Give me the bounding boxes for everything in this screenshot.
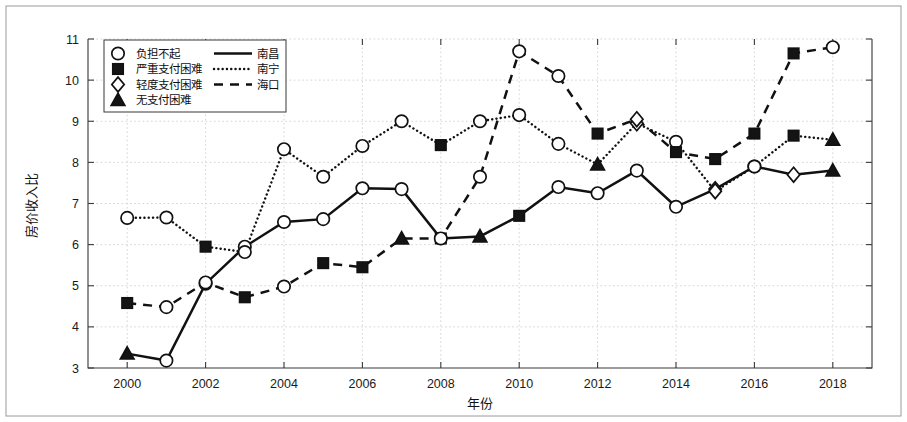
- legend-marker-严重支付困难: [113, 64, 123, 74]
- marker-square-filled: [592, 128, 602, 138]
- point-海口-2017: [788, 48, 798, 58]
- x-tick-label: 2002: [192, 377, 220, 391]
- point-南宁-2005: [317, 171, 329, 183]
- legend-city-海口[interactable]: 海口: [257, 78, 279, 92]
- marker-circle-open: [395, 115, 407, 127]
- marker-circle-open: [160, 354, 172, 366]
- point-海口-2015: [710, 154, 720, 164]
- marker-circle-open: [121, 212, 133, 224]
- legend-marker-负担不起: [112, 47, 124, 59]
- chart-root: 34567891011 2000200220042006200820102012…: [0, 0, 907, 422]
- marker-square-filled: [749, 128, 759, 138]
- marker-circle-open: [552, 181, 564, 193]
- marker-circle-open: [278, 143, 290, 155]
- x-tick-label: 2006: [348, 377, 376, 391]
- line-chart: 34567891011 2000200220042006200820102012…: [0, 0, 907, 422]
- point-南宁-2000: [121, 212, 133, 224]
- point-南宁-2007: [395, 115, 407, 127]
- point-海口-2002: [199, 276, 211, 288]
- point-南宁-2003: [239, 246, 251, 258]
- y-tick-label: 4: [72, 320, 79, 334]
- point-海口-2010: [513, 45, 525, 57]
- point-海口-2001: [160, 301, 172, 313]
- y-tick-label: 10: [65, 74, 79, 88]
- marker-circle-open: [435, 232, 447, 244]
- y-tick-label: 9: [72, 115, 79, 129]
- x-tick-label: 2010: [505, 377, 533, 391]
- legend-city-南昌[interactable]: 南昌: [257, 47, 279, 61]
- marker-circle-open: [278, 280, 290, 292]
- marker-circle-open: [748, 160, 760, 172]
- point-南宁-2016: [748, 160, 760, 172]
- marker-circle-open: [670, 201, 682, 213]
- chart-canvas: 34567891011 2000200220042006200820102012…: [0, 0, 907, 422]
- point-南宁-2010: [513, 109, 525, 121]
- marker-circle-open: [552, 70, 564, 82]
- point-海口-2000: [122, 298, 132, 308]
- marker-circle-open: [631, 164, 643, 176]
- point-南宁-2008: [436, 140, 446, 150]
- marker-square-filled: [200, 241, 210, 251]
- point-南昌-2014: [670, 201, 682, 213]
- marker-square-filled: [788, 48, 798, 58]
- legend[interactable]: 负担不起严重支付困难轻度支付困难无支付困难南昌南宁海口: [104, 40, 286, 112]
- point-南昌-2007: [395, 183, 407, 195]
- x-tick-label: 2016: [740, 377, 768, 391]
- x-tick-label: 2012: [584, 377, 612, 391]
- point-海口-2008: [435, 232, 447, 244]
- marker-circle-open: [317, 213, 329, 225]
- marker-circle-open: [356, 140, 368, 152]
- point-海口-2016: [749, 128, 759, 138]
- marker-circle-open: [356, 182, 368, 194]
- point-南昌-2011: [552, 181, 564, 193]
- x-tick-label: 2018: [819, 377, 847, 391]
- point-南昌-2006: [356, 182, 368, 194]
- legend-label-严重支付困难[interactable]: 严重支付困难: [136, 62, 202, 76]
- point-海口-2014: [671, 147, 681, 157]
- marker-square-filled: [113, 64, 123, 74]
- marker-circle-open: [199, 276, 211, 288]
- point-南宁-2002: [200, 241, 210, 251]
- marker-square-filled: [122, 298, 132, 308]
- point-南昌-2010: [514, 211, 524, 221]
- point-海口-2004: [278, 280, 290, 292]
- legend-city-南宁[interactable]: 南宁: [257, 62, 279, 76]
- marker-square-filled: [436, 140, 446, 150]
- y-tick-label: 7: [72, 197, 79, 211]
- point-南宁-2009: [474, 115, 486, 127]
- y-axis-title: 房价收入比: [24, 173, 39, 238]
- point-南昌-2004: [278, 216, 290, 228]
- marker-square-filled: [788, 130, 798, 140]
- marker-circle-open: [591, 187, 603, 199]
- point-南宁-2001: [160, 211, 172, 223]
- marker-circle-open: [278, 216, 290, 228]
- marker-circle-open: [395, 183, 407, 195]
- marker-square-filled: [514, 211, 524, 221]
- marker-circle-open: [474, 115, 486, 127]
- point-南宁-2006: [356, 140, 368, 152]
- marker-square-filled: [318, 258, 328, 268]
- x-axis-title: 年份: [467, 396, 493, 411]
- point-海口-2012: [592, 128, 602, 138]
- marker-circle-open: [160, 301, 172, 313]
- marker-circle-open: [827, 41, 839, 53]
- y-tick-label: 11: [66, 33, 79, 47]
- y-tick-label: 3: [72, 362, 79, 376]
- marker-square-filled: [357, 262, 367, 272]
- legend-label-轻度支付困难[interactable]: 轻度支付困难: [136, 78, 202, 92]
- marker-circle-open: [112, 47, 124, 59]
- y-tick-label: 5: [72, 279, 79, 293]
- point-南昌-2012: [591, 187, 603, 199]
- marker-square-filled: [710, 154, 720, 164]
- point-南宁-2017: [788, 130, 798, 140]
- x-tick-label: 2008: [427, 377, 455, 391]
- point-南昌-2001: [160, 354, 172, 366]
- y-tick-label: 6: [72, 238, 79, 252]
- point-海口-2003: [240, 292, 250, 302]
- marker-circle-open: [317, 171, 329, 183]
- marker-square-filled: [671, 147, 681, 157]
- x-tick-label: 2000: [113, 377, 141, 391]
- legend-label-无支付困难[interactable]: 无支付困难: [136, 93, 191, 107]
- legend-label-负担不起[interactable]: 负担不起: [136, 47, 181, 61]
- x-tick-label: 2014: [662, 377, 690, 391]
